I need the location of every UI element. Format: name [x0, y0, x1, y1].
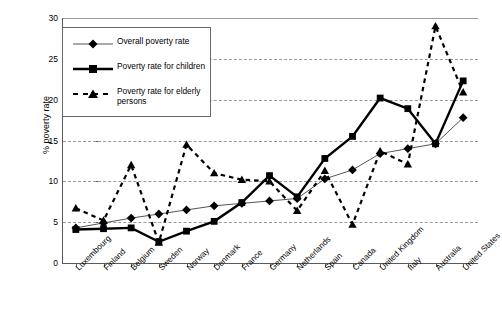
- gridline-15: [63, 141, 478, 142]
- y-tick-label-30: 30: [38, 14, 58, 23]
- chart-legend: Overall poverty rate Poverty rate for ch…: [62, 27, 211, 117]
- legend-entry-elderly: Poverty rate for elderly persons: [71, 86, 209, 106]
- y-tick-label-20: 20: [38, 95, 58, 104]
- legend-marker-triangle-icon: [71, 86, 115, 98]
- y-tick-label-10: 10: [38, 177, 58, 186]
- y-axis-tick-labels: 051015202530: [36, 18, 58, 263]
- legend-label-overall: Overall poverty rate: [115, 36, 189, 46]
- y-tick-label-5: 5: [38, 218, 58, 227]
- legend-label-children: Poverty rate for children: [115, 61, 205, 71]
- y-tick-label-0: 0: [38, 259, 58, 268]
- legend-label-elderly: Poverty rate for elderly persons: [115, 86, 209, 106]
- legend-entry-overall: Overall poverty rate: [71, 36, 189, 48]
- gridline-5: [63, 222, 478, 223]
- y-tick-label-25: 25: [38, 55, 58, 64]
- legend-marker-square-icon: [71, 61, 115, 73]
- y-tick-label-15: 15: [38, 136, 58, 145]
- gridline-10: [63, 181, 478, 182]
- legend-entry-children: Poverty rate for children: [71, 61, 205, 73]
- legend-marker-diamond-icon: [71, 36, 115, 48]
- gridline-30: [63, 18, 478, 19]
